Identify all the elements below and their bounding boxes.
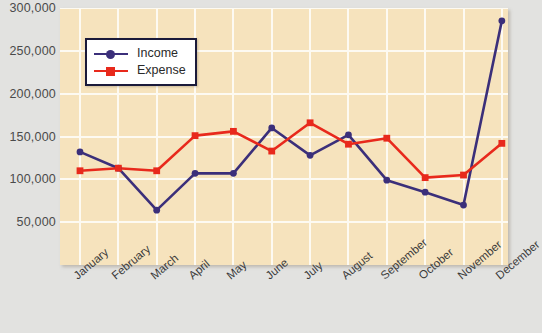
- data-point-expense-december: [498, 140, 505, 147]
- legend-marker-square-icon: [106, 67, 115, 76]
- legend-item-income: Income: [94, 45, 186, 62]
- data-point-income-july: [307, 152, 314, 159]
- data-point-expense-january: [77, 167, 84, 174]
- legend-marker-circle-icon: [106, 50, 115, 59]
- series-line-expense: [80, 123, 502, 178]
- legend-label: Expense: [137, 64, 186, 77]
- data-point-income-november: [460, 202, 467, 209]
- legend-swatch-expense-icon: [94, 65, 128, 77]
- data-point-expense-july: [307, 119, 314, 126]
- y-axis-tick-label: 250,000: [9, 45, 56, 58]
- y-axis-tick-label: 200,000: [9, 88, 56, 101]
- y-axis-tick-label: 150,000: [9, 131, 56, 144]
- x-axis: JanuaryFebruaryMarchAprilMayJuneJulyAugu…: [0, 265, 524, 333]
- data-point-income-june: [268, 125, 275, 132]
- legend-swatch-income-icon: [94, 48, 128, 60]
- data-point-expense-september: [383, 135, 390, 142]
- legend-item-expense: Expense: [94, 62, 186, 79]
- data-point-expense-october: [422, 174, 429, 181]
- chart-legend: IncomeExpense: [85, 38, 197, 86]
- data-point-expense-november: [460, 172, 467, 179]
- data-point-expense-june: [268, 148, 275, 155]
- data-point-expense-february: [115, 165, 122, 172]
- data-point-income-october: [422, 189, 429, 196]
- data-point-expense-april: [192, 132, 199, 139]
- data-point-expense-august: [345, 141, 352, 148]
- legend-label: Income: [137, 47, 178, 60]
- data-point-income-september: [383, 177, 390, 184]
- data-point-income-march: [153, 207, 160, 214]
- y-axis-tick-label: 100,000: [9, 173, 56, 186]
- data-point-income-may: [230, 170, 237, 177]
- data-point-income-december: [498, 17, 505, 24]
- data-point-income-january: [77, 149, 84, 156]
- data-point-expense-march: [153, 167, 160, 174]
- y-axis-tick-label: 300,000: [9, 2, 56, 15]
- plot-area: IncomeExpense: [60, 8, 508, 265]
- data-point-income-april: [192, 170, 199, 177]
- y-axis-tick-label: 50,000: [17, 216, 56, 229]
- data-point-expense-may: [230, 128, 237, 135]
- data-point-income-august: [345, 131, 352, 138]
